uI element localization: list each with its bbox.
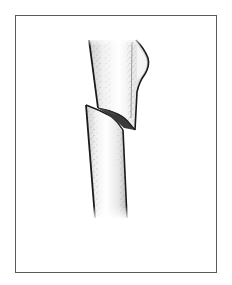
cut-stem-illustration xyxy=(0,0,232,285)
